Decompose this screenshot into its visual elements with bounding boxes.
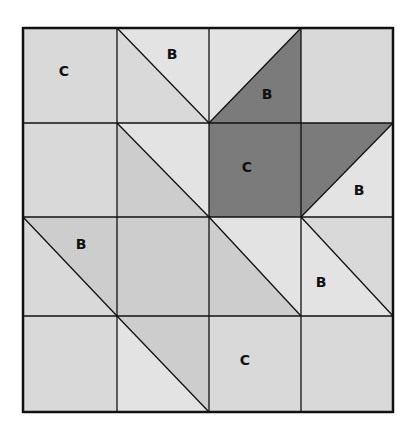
piece-label: B xyxy=(354,182,365,198)
solid-square xyxy=(209,316,301,412)
piece-label: B xyxy=(262,86,273,102)
solid-square xyxy=(209,123,301,217)
quilt-cell xyxy=(209,123,301,217)
piece-label: B xyxy=(76,236,87,252)
solid-square xyxy=(301,28,393,123)
solid-square xyxy=(23,28,117,123)
quilt-cell xyxy=(209,316,301,412)
quilt-cell xyxy=(301,28,393,123)
solid-square xyxy=(23,123,117,217)
quilt-block-diagram: CBBCBBBC xyxy=(0,0,414,430)
piece-label: C xyxy=(242,159,252,175)
piece-label: B xyxy=(316,274,327,290)
piece-label: B xyxy=(167,46,178,62)
quilt-cell xyxy=(117,217,209,316)
quilt-cell xyxy=(23,316,117,412)
solid-square xyxy=(301,316,393,412)
piece-label: C xyxy=(240,352,250,368)
quilt-cells xyxy=(23,28,393,412)
quilt-cell xyxy=(23,123,117,217)
piece-label: C xyxy=(59,63,69,79)
quilt-cell xyxy=(301,316,393,412)
solid-square xyxy=(23,316,117,412)
quilt-cell xyxy=(23,28,117,123)
solid-square xyxy=(117,217,209,316)
